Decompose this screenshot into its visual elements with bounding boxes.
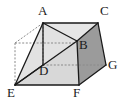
vertex-label-A: A — [38, 4, 47, 17]
vertex-label-C: C — [100, 4, 109, 17]
vertex-label-F: F — [73, 86, 80, 99]
vertex-label-D: D — [39, 64, 48, 77]
vertex-label-G: G — [108, 58, 117, 71]
vertex-label-E: E — [7, 86, 15, 99]
geometry-figure: A C B G D E F — [0, 0, 124, 107]
vertex-label-B: B — [79, 38, 88, 51]
